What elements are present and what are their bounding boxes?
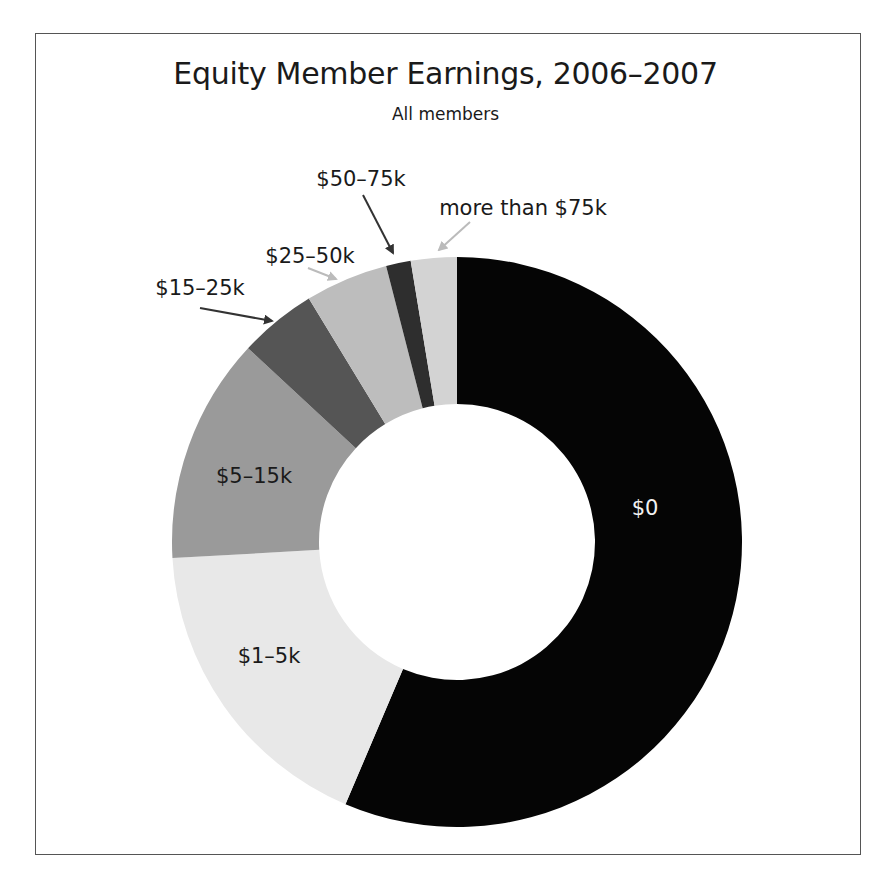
label-15-25k: $15–25k <box>155 276 245 300</box>
label-25-50k: $25–50k <box>265 244 355 268</box>
label-1-5k: $1–5k <box>238 644 302 668</box>
arrow-15-25k-icon <box>200 308 272 321</box>
label-50-75k: $50–75k <box>316 167 406 191</box>
donut-chart: $0 $1–5k $5–15k $15–25k $25–50k $50–75k … <box>0 0 891 880</box>
donut-slices <box>172 257 742 827</box>
arrow-over-75k-icon <box>439 222 470 250</box>
label-over-75k: more than $75k <box>439 196 608 220</box>
arrow-25-50k-icon <box>308 268 336 279</box>
arrow-50-75k-icon <box>363 195 393 253</box>
label-zero: $0 <box>632 496 659 520</box>
label-5-15k: $5–15k <box>216 464 293 488</box>
